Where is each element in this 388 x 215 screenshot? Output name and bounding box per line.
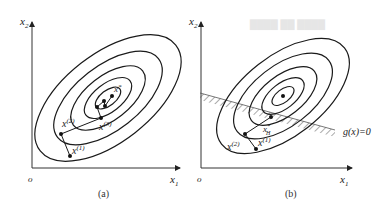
panel-a: x2 x1 o x(1) x(2) x(3) x* (a): [13, 10, 203, 200]
diagram-canvas: x2 x1 o x(1) x(2) x(3) x* (a): [0, 0, 388, 215]
panel-b: x2 x1 o x(1) x(2) x*H g(x)=0 (b): [188, 15, 371, 200]
origin-label-a: o: [28, 174, 33, 184]
point-label-x3-a: x(3): [98, 120, 112, 132]
caption-a: (a): [98, 188, 109, 200]
origin-label-b: o: [197, 174, 202, 184]
constraint-label: g(x)=0: [343, 126, 371, 138]
axis-y-label-b: x2: [188, 15, 198, 30]
caption-b: (b): [285, 188, 297, 200]
optimization-figure: ████ ██ ████: [0, 0, 388, 215]
point-label-xH-b: x*H: [262, 123, 271, 136]
point-label-x2-b: x(2): [226, 140, 240, 152]
point-label-x1-a: x(1): [71, 144, 85, 156]
axis-x-label-b: x1: [339, 173, 348, 188]
axis-x-label-a: x1: [169, 173, 178, 188]
point-label-x2-a: x(2): [61, 117, 75, 129]
contours-a: [13, 10, 203, 185]
axis-y-label-a: x2: [19, 15, 29, 30]
point-label-x1-b: x(1): [257, 136, 271, 148]
